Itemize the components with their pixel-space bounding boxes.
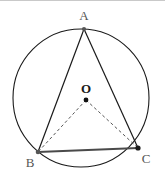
- circle-triangle-diagram: A B C O: [0, 0, 165, 187]
- label-vertex-b: B: [26, 155, 35, 170]
- vertex-dot-b: [36, 150, 41, 155]
- circumcircle: [13, 29, 149, 167]
- segment-ob-dashed: [38, 100, 86, 152]
- center-dot-o: [84, 98, 89, 103]
- segment-bc: [38, 148, 138, 152]
- label-vertex-a: A: [79, 8, 89, 23]
- label-center-o: O: [81, 81, 91, 96]
- label-vertex-c: C: [142, 151, 151, 166]
- geometry-figure: A B C O: [0, 0, 165, 187]
- segment-oc-dashed: [86, 100, 138, 148]
- segment-ac: [84, 29, 138, 148]
- vertex-dot-a: [82, 27, 86, 31]
- segment-ab: [38, 29, 84, 152]
- vertex-dot-c: [135, 145, 140, 150]
